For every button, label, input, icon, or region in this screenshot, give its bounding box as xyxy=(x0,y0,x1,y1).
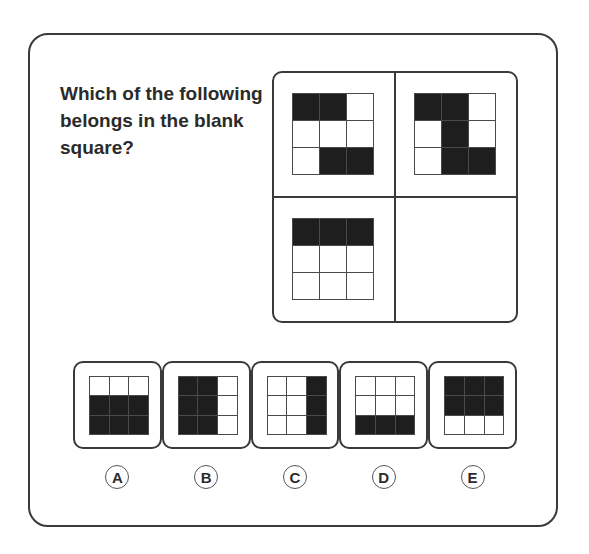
empty-square xyxy=(485,416,504,434)
option-d[interactable] xyxy=(339,361,428,449)
empty-square xyxy=(415,148,441,174)
filled-square xyxy=(179,377,198,395)
filled-square xyxy=(415,94,441,120)
empty-square xyxy=(287,416,306,434)
pattern-grid xyxy=(414,93,496,175)
empty-square xyxy=(356,396,375,414)
pattern-grid xyxy=(444,376,504,435)
filled-square xyxy=(307,377,326,395)
filled-square xyxy=(179,396,198,414)
empty-square xyxy=(376,396,395,414)
empty-square xyxy=(465,416,484,434)
pattern-matrix xyxy=(272,71,518,323)
filled-square xyxy=(129,396,148,414)
option-e[interactable] xyxy=(428,361,517,449)
filled-square xyxy=(442,121,468,147)
option-label-e[interactable]: E xyxy=(461,465,485,489)
matrix-cell-blank xyxy=(396,198,516,321)
empty-square xyxy=(268,416,287,434)
filled-square xyxy=(110,396,129,414)
empty-square xyxy=(110,377,129,395)
empty-square xyxy=(356,377,375,395)
empty-square xyxy=(218,377,237,395)
filled-square xyxy=(445,396,464,414)
pattern-grid xyxy=(267,376,327,435)
filled-square xyxy=(347,219,373,245)
filled-square xyxy=(179,416,198,434)
empty-square xyxy=(293,121,319,147)
filled-square xyxy=(485,377,504,395)
filled-square xyxy=(307,396,326,414)
empty-square xyxy=(320,246,346,272)
pattern-grid xyxy=(355,376,415,435)
pattern-grid xyxy=(292,93,374,175)
filled-square xyxy=(465,377,484,395)
filled-square xyxy=(293,94,319,120)
empty-square xyxy=(268,377,287,395)
option-label-b[interactable]: B xyxy=(194,465,218,489)
answer-options xyxy=(73,361,517,449)
empty-square xyxy=(469,94,495,120)
filled-square xyxy=(320,219,346,245)
empty-square xyxy=(268,396,287,414)
filled-square xyxy=(376,416,395,434)
empty-square xyxy=(415,121,441,147)
filled-square xyxy=(307,416,326,434)
matrix-cell-bottom-left xyxy=(274,198,394,321)
empty-square xyxy=(293,246,319,272)
matrix-cell-top-right xyxy=(396,73,516,196)
option-label-d[interactable]: D xyxy=(372,465,396,489)
question-text: Which of the following belongs in the bl… xyxy=(60,80,270,161)
filled-square xyxy=(469,148,495,174)
filled-square xyxy=(110,416,129,434)
filled-square xyxy=(198,396,217,414)
pattern-grid xyxy=(292,218,374,300)
empty-square xyxy=(320,121,346,147)
empty-square xyxy=(469,121,495,147)
filled-square xyxy=(90,396,109,414)
filled-square xyxy=(465,396,484,414)
empty-square xyxy=(320,273,346,299)
empty-square xyxy=(287,377,306,395)
pattern-grid xyxy=(178,376,238,435)
filled-square xyxy=(445,377,464,395)
empty-square xyxy=(293,148,319,174)
empty-square xyxy=(396,396,415,414)
empty-square xyxy=(347,94,373,120)
empty-square xyxy=(347,273,373,299)
filled-square xyxy=(347,148,373,174)
empty-square xyxy=(293,273,319,299)
filled-square xyxy=(90,416,109,434)
matrix-cell-top-left xyxy=(274,73,394,196)
option-label-c[interactable]: C xyxy=(283,465,307,489)
pattern-grid xyxy=(89,376,149,435)
filled-square xyxy=(320,94,346,120)
filled-square xyxy=(198,377,217,395)
empty-square xyxy=(396,377,415,395)
filled-square xyxy=(442,94,468,120)
empty-square xyxy=(347,121,373,147)
empty-square xyxy=(287,396,306,414)
filled-square xyxy=(396,416,415,434)
empty-square xyxy=(218,416,237,434)
filled-square xyxy=(198,416,217,434)
option-b[interactable] xyxy=(162,361,251,449)
empty-square xyxy=(129,377,148,395)
empty-square xyxy=(347,246,373,272)
empty-square xyxy=(376,377,395,395)
filled-square xyxy=(485,396,504,414)
empty-square xyxy=(445,416,464,434)
empty-square xyxy=(90,377,109,395)
filled-square xyxy=(293,219,319,245)
filled-square xyxy=(442,148,468,174)
option-labels: A B C D E xyxy=(73,465,517,489)
filled-square xyxy=(356,416,375,434)
empty-square xyxy=(218,396,237,414)
filled-square xyxy=(320,148,346,174)
option-c[interactable] xyxy=(251,361,340,449)
option-a[interactable] xyxy=(73,361,162,449)
filled-square xyxy=(129,416,148,434)
option-label-a[interactable]: A xyxy=(105,465,129,489)
